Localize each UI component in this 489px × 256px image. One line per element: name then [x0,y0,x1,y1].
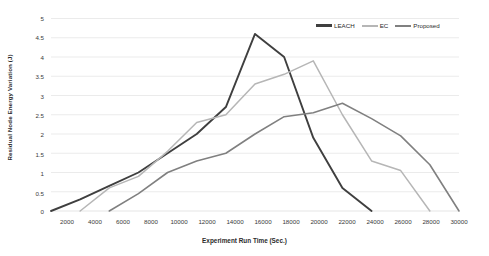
legend-item-leach[interactable]: LEACH [316,22,355,29]
legend-swatch-leach [316,24,332,26]
legend-label-proposed: Proposed [413,22,440,29]
legend-swatch-proposed [395,25,411,27]
legend-label-leach: LEACH [334,22,355,29]
series-line-ec [80,61,430,211]
gridlines [51,19,459,212]
line-chart: Residual Node Energy Variation (J) 5 4.5… [0,0,489,256]
series-lines [51,34,459,211]
legend-item-ec[interactable]: EC [362,22,389,29]
legend: LEACH EC Proposed [316,22,440,29]
series-line-leach [51,34,372,211]
legend-item-proposed[interactable]: Proposed [395,22,440,29]
plot-area [0,0,489,256]
legend-swatch-ec [362,25,378,27]
legend-label-ec: EC [380,22,389,29]
